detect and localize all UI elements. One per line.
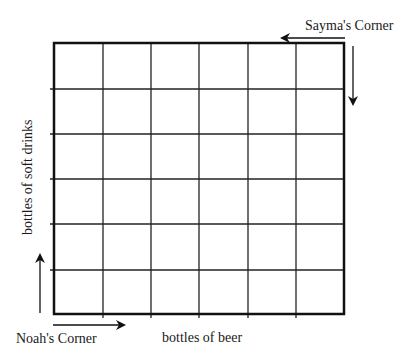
x-axis-label: bottles of beer: [162, 330, 242, 346]
edgeworth-box-grid: [0, 0, 404, 360]
sayma-corner-label: Sayma's Corner: [305, 18, 393, 34]
noah-corner-label: Noah's Corner: [16, 331, 97, 347]
grid-lines: [50, 43, 344, 318]
y-axis-label: bottles of soft drinks: [20, 120, 36, 236]
